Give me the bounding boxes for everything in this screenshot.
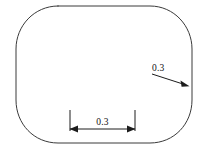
dimension-arrowhead-right-icon	[127, 126, 136, 133]
dimension-arrowhead-left-icon	[70, 126, 79, 133]
radius-dimension-label: 0.3	[152, 63, 165, 73]
radius-leader-line	[152, 74, 186, 85]
dimension-diagram: 0.3 0.3	[0, 0, 208, 153]
technical-drawing-canvas: 0.3 0.3	[0, 0, 208, 153]
linear-dimension-label: 0.3	[96, 117, 109, 127]
radius-leader-arrowhead-icon	[181, 81, 190, 87]
